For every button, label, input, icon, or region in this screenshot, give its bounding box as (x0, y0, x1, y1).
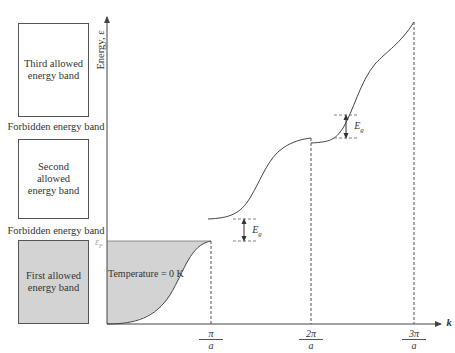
gap-label-1: Eg (250, 224, 264, 240)
x-axis-label: k (444, 317, 454, 329)
y-axis-label: Energy, ε (95, 20, 107, 80)
second-band-curve (208, 138, 311, 219)
third-band-box: Third allowed energy band (18, 23, 89, 117)
fermi-level-label: εF (93, 236, 105, 252)
forbidden-band-label-upper: Forbidden energy band (6, 121, 106, 133)
tick-pi: π a (199, 328, 223, 351)
gap-label-2: Eg (352, 120, 366, 136)
forbidden-band-label-lower: Forbidden energy band (6, 225, 106, 237)
tick-3pi: 3π a (402, 328, 426, 351)
temperature-label: Temperature = 0 K (108, 268, 188, 280)
tick-2pi: 2π a (299, 328, 323, 351)
second-band-box: Second allowed energy band (18, 139, 89, 219)
first-band-box: First allowed energy band (18, 240, 89, 324)
filled-states-region (107, 241, 211, 324)
